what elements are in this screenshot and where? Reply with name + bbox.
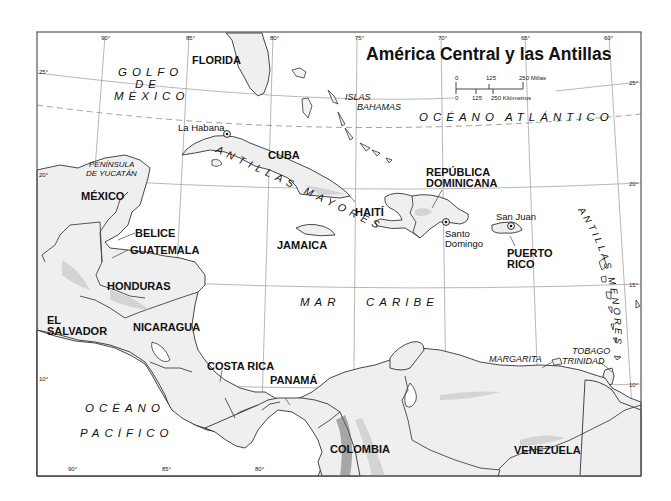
lat-label-15-right: 15° (629, 282, 638, 288)
water-label-mexico-gulf: MÉXICO (114, 90, 189, 102)
water-label-caribe: CARIBE (366, 296, 439, 308)
label-margarita: MARGARITA (489, 355, 542, 364)
water-label-pacifico: PACÍFICO (80, 427, 173, 439)
lon-label-90-bottom: 90° (68, 466, 77, 472)
lon-label-80-bottom: 80° (255, 466, 264, 472)
scale-miles-250: 250 Millas (519, 75, 546, 81)
lon-label-65-top: 65° (521, 35, 530, 41)
lon-label-75-top: 75° (355, 35, 364, 41)
water-label-golfo: GOLFO (118, 66, 183, 78)
water-label-oceano-atl: OCÉANO (419, 111, 499, 123)
label-bahamas-2: BAHAMAS (357, 103, 401, 112)
label-guatemala: GUATEMALA (130, 245, 199, 257)
lat-label-10-left: 10° (39, 376, 48, 382)
lat-label-20-left: 20° (39, 172, 48, 178)
water-label-mar: MAR (300, 296, 341, 308)
label-colombia: COLOMBIA (330, 444, 390, 456)
water-label-de: DE (135, 78, 161, 90)
lon-label-90-top: 90° (101, 35, 110, 41)
label-cuba: CUBA (268, 150, 300, 162)
label-belice: BELICE (135, 228, 175, 240)
scale-bar-graphic (452, 82, 532, 96)
capital-marker-habana (224, 131, 231, 138)
lon-label-85-top: 85° (186, 35, 195, 41)
lon-label-60-top: 60° (604, 35, 613, 41)
label-jamaica: JAMAICA (277, 240, 327, 252)
capital-marker-santo-domingo (443, 219, 450, 226)
lat-label-25-right: 25° (629, 80, 638, 86)
label-panama: PANAMÁ (270, 375, 317, 387)
label-costa-rica: COSTA RICA (207, 361, 274, 373)
lat-label-20-right: 20° (629, 181, 638, 187)
label-santo-domingo-2: Domingo (445, 239, 483, 249)
label-haiti: HAITÍ (355, 207, 384, 219)
label-mexico: MÉXICO (81, 191, 124, 203)
label-el-salvador-2: SALVADOR (47, 326, 107, 338)
map-canvas: ANTILLAS MAYORES ANTILLAS MENORES (0, 0, 671, 501)
capital-marker-san-juan (508, 223, 515, 230)
label-rep-dom-2: DOMINICANA (426, 178, 498, 190)
lat-label-10-right: 10° (629, 382, 638, 388)
label-yucatan-2: DE YUCATÁN (86, 170, 137, 178)
label-honduras: HONDURAS (107, 281, 171, 293)
antillas-menores-label: ANTILLAS MENORES (576, 204, 624, 347)
scale-miles-125: 125 (486, 75, 496, 81)
label-trinidad: TRINIDAD (562, 357, 605, 366)
label-la-habana: La Habana (178, 123, 224, 133)
scale-miles-0: 0 (455, 75, 458, 81)
label-nicaragua: NICARAGUA (133, 322, 200, 334)
lon-label-80-top: 80° (270, 35, 279, 41)
lat-label-25-left: 25° (39, 69, 48, 75)
lon-label-70-top: 70° (438, 35, 447, 41)
water-label-oceano-pac: OCÉANO (85, 402, 165, 414)
water-label-atlantico: ATLÁNTICO (505, 111, 614, 123)
lon-label-85-bottom: 85° (162, 466, 171, 472)
scale-km-125: 125 (472, 95, 482, 101)
label-san-juan: San Juan (496, 212, 536, 222)
scale-km-250: 250 Kilómetros (491, 95, 531, 101)
label-puerto-rico-2: RICO (507, 259, 535, 271)
label-venezuela: VENEZUELA (514, 445, 581, 457)
label-florida: FLORIDA (192, 55, 241, 67)
map-title: América Central y las Antillas (366, 45, 611, 63)
scale-km-0: 0 (455, 95, 458, 101)
